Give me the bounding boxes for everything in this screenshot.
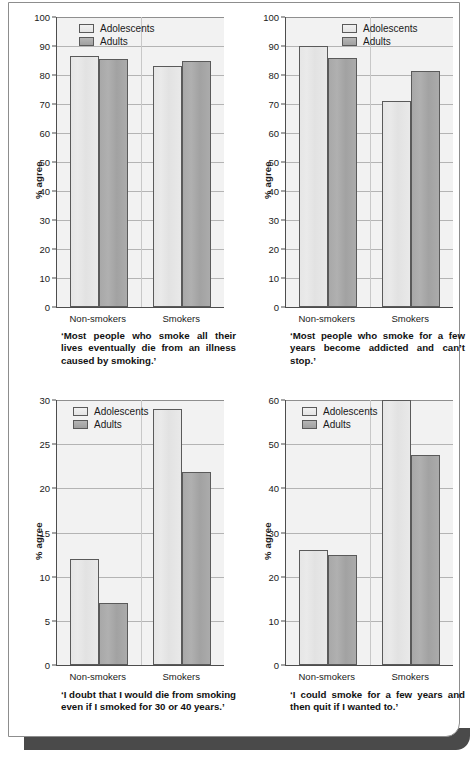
legend-label: Adults <box>323 420 351 430</box>
legend: AdolescentsAdults <box>342 23 417 49</box>
y-tick-label: 60 <box>10 128 50 139</box>
x-tick-label-non-smokers: Non-smokers <box>70 671 127 682</box>
y-tick-mark <box>52 665 56 666</box>
y-tick-mark <box>52 532 56 533</box>
y-tick-mark <box>52 133 56 134</box>
y-tick-mark <box>281 133 285 134</box>
y-tick-label: 20 <box>10 483 50 494</box>
legend-swatch-adolescents-icon <box>302 407 317 416</box>
bar-smokers-adolescents <box>382 400 411 665</box>
legend: AdolescentsAdults <box>302 406 377 432</box>
y-tick-mark <box>52 249 56 250</box>
legend-swatch-adults-icon <box>342 37 357 46</box>
y-tick-label: 0 <box>10 660 50 671</box>
y-tick-label: 25 <box>10 439 50 450</box>
legend-item-adolescents: Adolescents <box>342 23 417 34</box>
y-tick-label: 30 <box>10 395 50 406</box>
category-separator <box>141 400 142 665</box>
x-tick-label-non-smokers: Non-smokers <box>299 671 356 682</box>
panel-bottom-right: % agree0102030405060Non-smokersSmokersAd… <box>234 382 459 733</box>
x-tick-label-non-smokers: Non-smokers <box>299 313 356 324</box>
y-tick-label: 10 <box>239 273 279 284</box>
y-tick-mark <box>281 444 285 445</box>
legend-swatch-adults-icon <box>79 37 94 46</box>
y-tick-label: 70 <box>10 99 50 110</box>
y-tick-mark <box>52 220 56 221</box>
bar-non-smokers-adolescents <box>70 559 99 665</box>
panel-bottom-left: % agree051015202530Non-smokersSmokersAdo… <box>9 382 234 733</box>
y-tick-mark <box>281 665 285 666</box>
y-tick-label: 60 <box>239 395 279 406</box>
bar-non-smokers-adolescents <box>299 46 328 307</box>
y-tick-mark <box>52 400 56 401</box>
y-tick-mark <box>52 620 56 621</box>
y-tick-mark <box>281 46 285 47</box>
y-tick-mark <box>52 46 56 47</box>
y-tick-mark <box>281 220 285 221</box>
y-tick-label: 60 <box>239 128 279 139</box>
bar-non-smokers-adolescents <box>70 56 99 307</box>
panel-top-right: % agree0102030405060708090100Non-smokers… <box>234 3 459 382</box>
x-tick-label-smokers: Smokers <box>163 671 200 682</box>
legend-item-adults: Adults <box>79 36 154 47</box>
panel-caption: ‘Most people who smoke all their lives e… <box>61 330 236 367</box>
bar-smokers-adults <box>411 455 440 665</box>
bar-smokers-adults <box>182 61 211 308</box>
plot-area <box>285 17 453 308</box>
legend-swatch-adults-icon <box>73 420 88 429</box>
plot-area <box>56 400 224 666</box>
y-tick-label: 70 <box>239 99 279 110</box>
legend-item-adults: Adults <box>73 419 148 430</box>
y-tick-label: 30 <box>239 215 279 226</box>
y-tick-label: 90 <box>239 41 279 52</box>
y-tick-mark <box>52 307 56 308</box>
bar-smokers-adults <box>182 472 211 665</box>
y-tick-mark <box>52 278 56 279</box>
y-tick-label: 40 <box>239 483 279 494</box>
y-tick-mark <box>281 400 285 401</box>
bar-smokers-adolescents <box>153 409 182 665</box>
plot-area <box>56 17 224 308</box>
legend-swatch-adults-icon <box>302 420 317 429</box>
y-tick-mark <box>281 488 285 489</box>
y-tick-mark <box>281 249 285 250</box>
y-tick-mark <box>52 17 56 18</box>
panel-caption: ‘I could smoke for a few years and then … <box>290 689 465 714</box>
legend-swatch-adolescents-icon <box>79 24 94 33</box>
bar-non-smokers-adults <box>99 603 128 665</box>
y-tick-mark <box>281 278 285 279</box>
y-tick-label: 80 <box>10 70 50 81</box>
y-tick-mark <box>52 75 56 76</box>
x-tick-label-non-smokers: Non-smokers <box>70 313 127 324</box>
bar-smokers-adolescents <box>153 66 182 307</box>
legend-label: Adults <box>363 37 391 47</box>
x-tick-label-smokers: Smokers <box>392 671 429 682</box>
legend: AdolescentsAdults <box>79 23 154 49</box>
y-tick-label: 90 <box>10 41 50 52</box>
y-tick-mark <box>281 17 285 18</box>
legend-label: Adolescents <box>323 407 377 417</box>
category-separator <box>370 17 371 307</box>
figure-panel-grid: % agree0102030405060708090100Non-smokers… <box>9 3 459 733</box>
panel-top-left: % agree0102030405060708090100Non-smokers… <box>9 3 234 382</box>
y-tick-label: 30 <box>10 215 50 226</box>
y-tick-mark <box>281 307 285 308</box>
y-tick-mark <box>52 191 56 192</box>
legend-item-adults: Adults <box>342 36 417 47</box>
legend-swatch-adolescents-icon <box>342 24 357 33</box>
y-tick-label: 20 <box>239 244 279 255</box>
legend-label: Adults <box>100 37 128 47</box>
legend-swatch-adolescents-icon <box>73 407 88 416</box>
y-tick-label: 5 <box>10 615 50 626</box>
y-tick-label: 40 <box>239 186 279 197</box>
panel-caption: ‘I doubt that I would die from smoking e… <box>61 689 236 714</box>
y-tick-label: 50 <box>239 439 279 450</box>
y-tick-label: 10 <box>10 273 50 284</box>
bar-smokers-adolescents <box>382 101 411 307</box>
legend-label: Adolescents <box>94 407 148 417</box>
panel-caption: ‘Most people who smoke for a few years b… <box>290 330 465 367</box>
y-tick-mark <box>281 75 285 76</box>
bar-non-smokers-adults <box>328 555 357 665</box>
y-tick-label: 15 <box>10 527 50 538</box>
legend-label: Adolescents <box>363 24 417 34</box>
